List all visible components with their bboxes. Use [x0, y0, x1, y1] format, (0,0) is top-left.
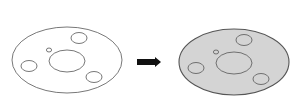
center-hole	[216, 52, 252, 74]
diagram-canvas	[0, 0, 303, 100]
bolt-hole	[86, 72, 102, 83]
bolt-hole	[253, 74, 269, 85]
small-hole	[46, 48, 51, 52]
center-hole	[49, 50, 85, 72]
bolt-hole	[71, 33, 87, 44]
right-arrow-icon	[137, 57, 161, 67]
arrow-head	[155, 57, 161, 67]
filled-flange	[179, 29, 289, 95]
bolt-hole	[21, 61, 37, 72]
flange-diagram	[0, 0, 303, 100]
outline-flange	[12, 27, 122, 93]
bolt-hole	[188, 63, 204, 74]
flange-outer-edge	[12, 27, 122, 93]
bolt-hole	[236, 35, 252, 46]
small-hole	[213, 50, 218, 54]
arrow-shaft	[137, 59, 156, 65]
